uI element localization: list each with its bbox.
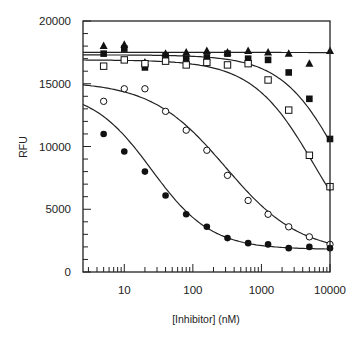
filled-circle-point (306, 244, 313, 251)
open-square-point (204, 59, 210, 65)
y-axis-title: RFU (17, 136, 29, 158)
filled-circle-point (285, 245, 292, 252)
x-axis-title: [Inhibitor] (nM) (172, 313, 240, 325)
filled-square-point (121, 45, 128, 52)
open-circle-point (162, 108, 168, 114)
filled-circle-point (204, 224, 211, 231)
open-circle-point (121, 86, 127, 92)
filled-square-point (265, 57, 272, 64)
open-circle-point (286, 224, 292, 230)
open-circle-point (204, 147, 210, 153)
filled-triangle-point (100, 42, 108, 50)
filled-circle-point (245, 240, 252, 247)
open-square-point (265, 77, 271, 83)
open-square-point (286, 107, 292, 113)
open-circle-point (245, 197, 251, 203)
open-square-point (121, 57, 127, 63)
filled-square-point (100, 50, 107, 57)
y-tick-label: 0 (65, 266, 71, 278)
filled-triangle-point (244, 47, 252, 55)
y-tick-label: 15000 (39, 78, 71, 90)
filled-square-point (183, 55, 190, 62)
open-square-point (245, 60, 251, 66)
y-tick-label: 20000 (39, 15, 71, 27)
open-circle-point (142, 86, 148, 92)
y-tick-label: 5000 (45, 203, 71, 215)
open-square-fit-curve (83, 60, 330, 191)
open-circle-point (306, 234, 312, 240)
filled-square-point (224, 50, 231, 57)
open-square-point (224, 62, 230, 68)
data-points (100, 40, 334, 251)
dose-response-chart: 05000100001500020000 10100100010000 RFU … (0, 0, 361, 344)
filled-circle-point (265, 241, 272, 248)
open-circle-point (183, 127, 189, 133)
x-tick-label: 1000 (249, 284, 275, 296)
filled-triangle-point (203, 47, 211, 55)
filled-circle-point (121, 148, 128, 155)
x-tick-label: 100 (183, 284, 202, 296)
filled-circle-point (100, 131, 107, 138)
filled-square-point (306, 96, 313, 103)
filled-circle-point (162, 192, 169, 199)
filled-square-point (285, 69, 292, 76)
open-square-point (142, 60, 148, 66)
filled-triangle-point (182, 48, 190, 56)
filled-circle-point (142, 168, 149, 175)
open-circle-point (100, 98, 106, 104)
filled-square-fit-curve (83, 55, 330, 142)
x-tick-label: 10000 (314, 284, 346, 296)
open-square-point (100, 63, 106, 69)
x-tick-label: 10 (118, 284, 131, 296)
open-square-point (183, 62, 189, 68)
open-square-point (306, 152, 312, 158)
y-tick-label: 10000 (39, 141, 71, 153)
filled-circle-point (224, 235, 231, 242)
open-circle-point (224, 172, 230, 178)
open-square-point (162, 58, 168, 64)
open-circle-fit-curve (83, 85, 330, 244)
filled-triangle-point (264, 48, 272, 56)
x-axis: 10100100010000 (88, 264, 346, 296)
open-circle-point (265, 211, 271, 217)
filled-circle-point (183, 211, 190, 218)
filled-triangle-point (305, 59, 313, 67)
